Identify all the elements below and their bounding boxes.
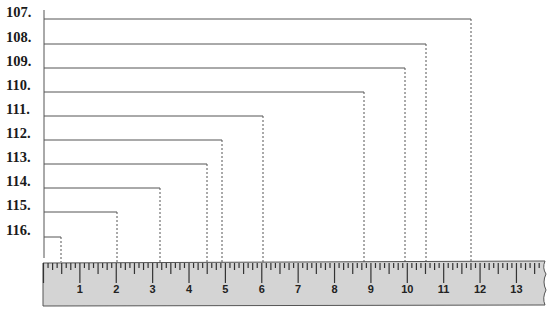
ruler-number: 10: [401, 283, 413, 295]
ruler-number: 3: [150, 283, 156, 295]
ruler-number: 12: [474, 283, 486, 295]
ruler-number: 11: [438, 283, 450, 295]
ruler-diagram: 107.108.109.110.111.112.113.114.115.116.…: [0, 0, 555, 309]
ruler-number: 4: [186, 283, 192, 295]
ruler-number: 9: [368, 283, 374, 295]
ruler: [0, 0, 555, 309]
ruler-number: 1: [77, 283, 83, 295]
ruler-number: 5: [222, 283, 228, 295]
ruler-number: 2: [113, 283, 119, 295]
ruler-number: 6: [259, 283, 265, 295]
ruler-number: 7: [295, 283, 301, 295]
ruler-number: 13: [510, 283, 522, 295]
ruler-number: 8: [331, 283, 337, 295]
